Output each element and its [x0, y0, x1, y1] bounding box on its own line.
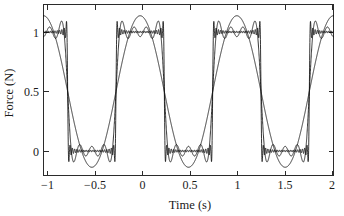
curve-partial-sum-mid: [44, 21, 334, 162]
chart-figure: −1 −0.5 0 0.5 1 1.5 2 0 0.5 1 Time (s) F…: [0, 0, 344, 216]
waveform-curves: [44, 16, 334, 168]
x-axis-title: Time (s): [169, 198, 211, 212]
x-tick-label: 1: [235, 178, 241, 192]
x-tick-label: −0.5: [84, 178, 106, 192]
y-tick-label: 1: [33, 26, 39, 40]
y-tick-label: 0: [33, 145, 39, 159]
x-axis-tick-labels: −1 −0.5 0 0.5 1 1.5 2: [41, 178, 335, 192]
x-tick-label: 2: [329, 178, 335, 192]
force-vs-time-plot: −1 −0.5 0 0.5 1 1.5 2 0 0.5 1 Time (s) F…: [0, 0, 344, 216]
x-tick-label: −1: [41, 178, 54, 192]
x-tick-label: 1.5: [278, 178, 293, 192]
y-axis-ticks: [44, 32, 334, 151]
curve-partial-sum-high: [44, 21, 334, 161]
y-axis-tick-labels: 0 0.5 1: [24, 26, 39, 159]
axes-frame: [44, 5, 334, 176]
curve-fundamental: [44, 16, 334, 168]
x-tick-label: 0.5: [183, 178, 198, 192]
y-tick-label: 0.5: [24, 85, 39, 99]
x-tick-label: 0: [140, 178, 146, 192]
y-axis-title: Force (N): [2, 69, 16, 118]
